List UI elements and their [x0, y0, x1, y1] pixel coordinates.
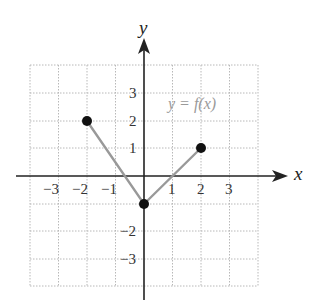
function-graph	[0, 0, 320, 305]
y-tick-2: 2	[129, 114, 137, 129]
y-tick-1: 1	[129, 141, 137, 156]
function-label: y = f(x)	[168, 96, 216, 112]
x-tick-1: 1	[168, 182, 176, 197]
x-tick-neg3: −3	[43, 182, 59, 197]
x-tick-neg2: −2	[72, 182, 88, 197]
point-neg2-2	[82, 116, 92, 126]
point-0-neg1	[139, 199, 149, 209]
y-tick-neg2: −2	[120, 224, 136, 239]
x-axis-label: x	[294, 164, 302, 183]
x-tick-neg1: −1	[101, 182, 117, 197]
axes	[16, 48, 278, 300]
point-2-1	[196, 143, 206, 153]
y-tick-3: 3	[129, 86, 137, 101]
x-tick-3: 3	[225, 182, 233, 197]
y-tick-neg3: −3	[120, 252, 136, 267]
x-tick-2: 2	[197, 182, 205, 197]
y-axis-label: y	[139, 18, 147, 37]
